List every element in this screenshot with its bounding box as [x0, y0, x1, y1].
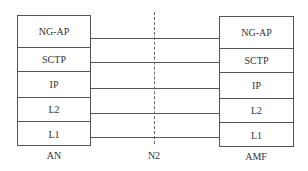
layer-label: L1 [48, 129, 59, 140]
peer-link-l1 [90, 137, 220, 138]
peer-link-sctp [90, 62, 220, 63]
layer-label: SCTP [245, 55, 269, 66]
layer-label: IP [50, 79, 59, 90]
an-layer-l1: L1 [18, 121, 90, 146]
amf-label: AMF [226, 151, 286, 162]
amf-layer-l2: L2 [220, 98, 293, 122]
amf-layer-ip: IP [220, 72, 293, 98]
an-protocol-stack: NG-AP SCTP IP L2 L1 [17, 15, 91, 146]
an-layer-ip: IP [18, 71, 90, 97]
layer-label: NG-AP [241, 27, 272, 38]
an-layer-ngap: NG-AP [18, 16, 90, 47]
peer-link-l2 [90, 113, 220, 114]
peer-link-ngap [90, 38, 220, 39]
n2-label: N2 [124, 150, 184, 161]
layer-label: L2 [251, 105, 262, 116]
amf-layer-sctp: SCTP [220, 48, 293, 72]
n2-interface-divider [154, 12, 155, 144]
layer-label: L1 [251, 130, 262, 141]
peer-link-ip [90, 88, 220, 89]
amf-layer-l1: L1 [220, 122, 293, 147]
layer-label: IP [252, 80, 261, 91]
amf-layer-ngap: NG-AP [220, 17, 293, 48]
an-layer-sctp: SCTP [18, 47, 90, 71]
layer-label: L2 [48, 104, 59, 115]
an-layer-l2: L2 [18, 97, 90, 121]
amf-protocol-stack: NG-AP SCTP IP L2 L1 [219, 16, 294, 147]
an-label: AN [24, 150, 84, 161]
layer-label: SCTP [42, 54, 66, 65]
layer-label: NG-AP [39, 26, 70, 37]
